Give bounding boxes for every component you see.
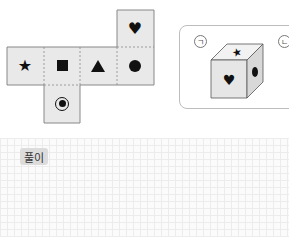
cube-choice-a: ★ ♥ — [209, 40, 265, 100]
star-icon: ★ — [18, 58, 32, 74]
net-face-heart: ♥ — [117, 10, 153, 47]
cube-net: ♥ ★ — [0, 0, 160, 130]
choice-label-a[interactable]: ㄱ — [194, 35, 207, 48]
solution-label: 풀이 — [20, 148, 48, 165]
circle-icon — [252, 67, 258, 77]
target-icon — [55, 97, 69, 111]
circle-icon — [129, 60, 141, 72]
heart-icon: ♥ — [128, 21, 142, 37]
net-face-star: ★ — [7, 47, 43, 84]
heart-icon: ♥ — [223, 72, 236, 88]
triangle-icon — [91, 60, 105, 72]
choice-label-b[interactable]: ㄴ — [278, 35, 289, 48]
net-face-circle — [117, 47, 153, 84]
net-face-target — [44, 85, 80, 122]
square-icon — [57, 60, 68, 71]
net-face-square — [44, 47, 80, 84]
net-face-triangle — [80, 47, 116, 84]
